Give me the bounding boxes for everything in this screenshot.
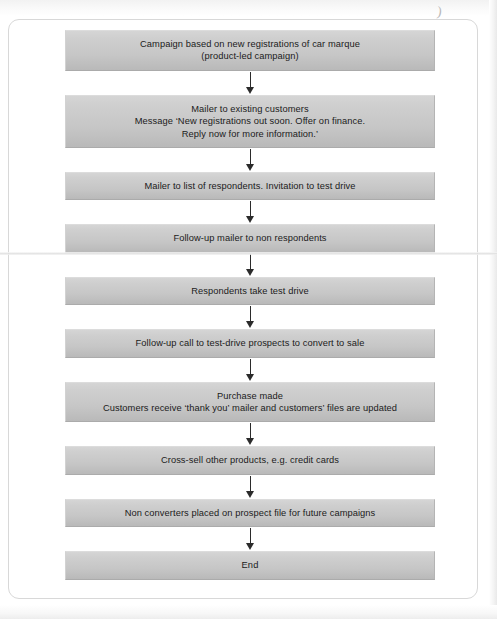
scan-artifact-midline [0,252,497,255]
flow-connector-arrow [65,71,435,95]
arrow-head-icon [246,543,254,550]
flow-node-line: Reply now for more information.’ [182,128,318,140]
arrow-head-icon [246,216,254,223]
flow-node-line: Campaign based on new registrations of c… [140,38,360,50]
flow-node-purchase-made: Purchase madeCustomers receive ‘thank yo… [65,382,435,423]
arrow-head-icon [246,164,254,171]
arrow-head-icon [246,321,254,328]
flow-connector-arrow [65,200,435,224]
flow-node-line: Follow-up call to test-drive prospects t… [136,337,365,349]
flow-connector-arrow [65,148,435,172]
flow-node-line: Respondents take test drive [191,285,308,297]
flow-node-line: Cross-sell other products, e.g. credit c… [161,454,339,466]
arrow-head-icon [246,438,254,445]
flow-node-line: Mailer to existing customers [191,103,308,115]
flow-node-line: Non converters placed on prospect file f… [125,507,376,519]
flow-node-line: Customers receive ‘thank you’ mailer and… [103,402,397,414]
flow-node-end: End [65,551,435,579]
arrow-head-icon [246,374,254,381]
flow-node-line: Mailer to list of respondents. Invitatio… [144,180,355,192]
flow-node-line: Purchase made [217,390,283,402]
arrow-head-icon [246,269,254,276]
flow-node-line: End [242,559,259,571]
flow-connector-arrow [65,422,435,446]
arrow-head-icon [246,491,254,498]
figure-frame: Campaign based on new registrations of c… [8,19,478,599]
flow-node-followup-mailer-non-respondents: Follow-up mailer to non respondents [65,224,435,252]
arrow-head-icon [246,87,254,94]
scan-artifact-glyph: ) [436,6,445,19]
flow-node-line: Message ‘New registrations out soon. Off… [135,115,366,127]
flow-connector-arrow [65,358,435,382]
flow-connector-arrow [65,475,435,499]
flow-node-mailer-existing-customers: Mailer to existing customersMessage ‘New… [65,95,435,148]
flow-node-line: (product-led campaign) [201,50,298,62]
flow-node-followup-call-convert: Follow-up call to test-drive prospects t… [65,329,435,357]
flow-connector-arrow [65,305,435,329]
flow-connector-arrow [65,253,435,277]
scan-artifact-right-edge [489,0,497,619]
flow-connector-arrow [65,527,435,551]
flow-node-respondents-take-test-drive: Respondents take test drive [65,277,435,305]
flow-node-cross-sell-products: Cross-sell other products, e.g. credit c… [65,446,435,474]
flowchart: Campaign based on new registrations of c… [65,30,435,580]
scan-artifact-top-edge [0,0,497,16]
flow-node-mailer-respondents: Mailer to list of respondents. Invitatio… [65,172,435,200]
flow-node-campaign-basis: Campaign based on new registrations of c… [65,30,435,71]
flow-node-non-converters-prospect-file: Non converters placed on prospect file f… [65,499,435,527]
scan-artifact-bottom-edge [0,605,497,619]
flow-node-line: Follow-up mailer to non respondents [173,232,326,244]
